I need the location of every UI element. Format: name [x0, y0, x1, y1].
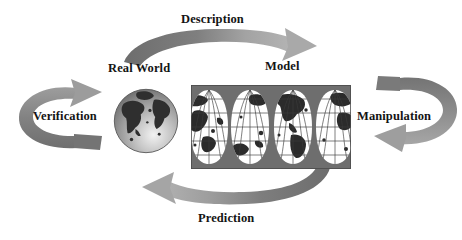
world-map-interrupted-projection-icon [191, 85, 351, 169]
arrow-label-description: Description [181, 13, 244, 26]
arrow-prediction-body [160, 168, 330, 204]
arrow-verification-tail [74, 134, 102, 150]
arrow-label-manipulation: Manipulation [357, 110, 431, 123]
arrow-prediction [118, 168, 342, 210]
node-label-model: Model [265, 60, 300, 73]
arrow-label-verification: Verification [33, 110, 97, 123]
diagram-canvas: Description Verification [0, 0, 462, 240]
arrow-manipulation-head [374, 124, 406, 152]
arrow-manipulation-tail [376, 76, 400, 91]
node-label-real-world: Real World [108, 62, 170, 75]
globe-sphere-icon [113, 88, 179, 154]
arrow-label-prediction: Prediction [198, 212, 254, 225]
